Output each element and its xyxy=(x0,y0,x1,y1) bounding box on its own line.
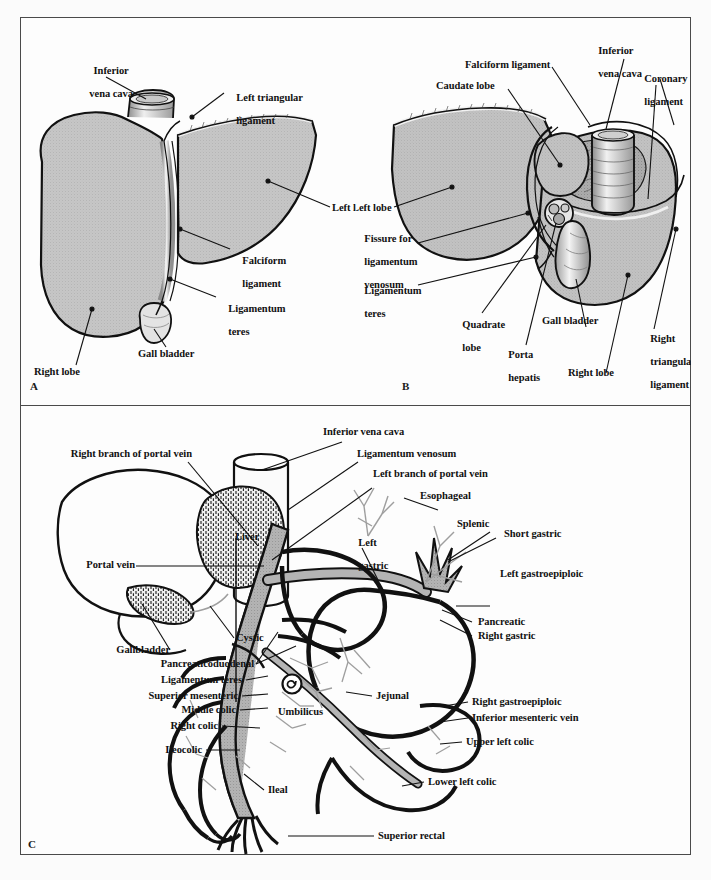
panel-c-portal-venous-system: C Inferior vena cava Right branch of por… xyxy=(20,406,691,855)
bare-area-shading xyxy=(560,140,646,203)
portal-vein-trunk-path xyxy=(220,524,272,816)
label-right-triangular-ligament-b: Right triangular ligament xyxy=(640,321,691,402)
label-left-branch-portal-vein-c: Left branch of portal vein xyxy=(373,468,543,480)
gall-bladder-b xyxy=(555,221,590,288)
label-ligamentum-teres-b: Ligamentum teres xyxy=(356,273,444,331)
caudate-lobe-shape xyxy=(535,133,589,196)
panel-a-letter: A xyxy=(30,380,38,392)
label-ligamentum-teres-c: Ligamentum teres xyxy=(50,674,242,686)
liver-left-lobe-shape xyxy=(178,116,316,263)
fissure-ligamentum-venosum xyxy=(527,127,554,251)
ivc-tube-c xyxy=(234,454,288,606)
label-pancreaticoduodenal-c: Pancreaticoduodenal xyxy=(30,658,254,670)
liver-outline-c xyxy=(58,470,226,617)
liver-right-lobe-shape xyxy=(41,112,170,337)
label-coronary-ligament-b: Coronary ligament xyxy=(634,61,691,119)
label-right-lobe-a: Right lobe xyxy=(34,366,134,378)
label-superior-mesenteric-c: Superior mesenteric xyxy=(46,690,238,702)
gallbladder-cystic-c xyxy=(127,585,228,624)
umbilicus-icon xyxy=(283,675,302,694)
ileal-arcades xyxy=(208,834,240,842)
label-right-gastric-c: Right gastric xyxy=(478,630,578,642)
ivc-b xyxy=(592,129,634,215)
panel-a-anterior-liver: A Inferior vena cava Left triangular lig… xyxy=(20,17,356,405)
label-ligamentum-venosum-c: Ligamentum venosum xyxy=(357,448,517,460)
label-ligamentum-teres-a: Ligamentum teres xyxy=(218,291,318,349)
short-gastric-tributaries xyxy=(426,526,466,582)
label-upper-left-colic-c: Upper left colic xyxy=(466,736,596,748)
label-ileocolic-c: Ileocolic xyxy=(110,744,202,756)
porta-hepatis-group xyxy=(545,199,573,227)
label-lower-left-colic-c: Lower left colic xyxy=(428,776,558,788)
panel-c-letter: C xyxy=(28,838,36,850)
splenic-hilum xyxy=(416,538,462,592)
label-liver-c: Liver xyxy=(235,531,295,543)
panel-b-visceral-liver: B Falciform ligament Caudate lobe Inferi… xyxy=(356,17,691,405)
label-left-gastric-c: Left gastric xyxy=(348,525,408,583)
label-left-triangular-ligament-a: Left triangular ligament xyxy=(226,80,346,138)
label-left-gastroepiploic-c: Left gastroepiploic xyxy=(500,568,640,580)
coronary-ligament-band xyxy=(588,122,678,197)
label-gall-bladder-b: Gall bladder xyxy=(542,315,642,327)
cystic-vein xyxy=(192,594,228,612)
label-right-gastroepiploic-c: Right gastroepiploic xyxy=(472,696,622,708)
label-left-lobe-b: Left lobe xyxy=(356,202,422,214)
label-inferior-vena-cava-a: Inferior vena cava xyxy=(56,53,156,111)
panel-c-artwork xyxy=(20,406,691,855)
jejunal-tributaries xyxy=(270,658,332,752)
label-esophageal-c: Esophageal xyxy=(420,490,510,502)
label-falciform-ligament-b: Falciform ligament xyxy=(465,59,595,71)
liver-right-lobe-shape-b xyxy=(536,130,676,305)
panel-b-letter: B xyxy=(402,380,409,392)
label-gall-bladder-a: Gall bladder xyxy=(138,348,248,360)
label-portal-vein-c: Portal vein xyxy=(40,559,135,571)
portal-vein-trunk xyxy=(220,524,288,818)
label-inferior-mesenteric-vein-c: Inferior mesenteric vein xyxy=(472,712,642,724)
label-ileal-c: Ileal xyxy=(268,784,318,796)
right-gastric-vein xyxy=(282,620,346,633)
label-caudate-lobe-b: Caudate lobe xyxy=(436,80,546,92)
label-jejunal-c: Jejunal xyxy=(376,690,446,702)
label-right-branch-portal-vein-c: Right branch of portal vein xyxy=(26,448,192,460)
label-middle-colic-c: Middle colic xyxy=(66,704,236,716)
label-pancreatic-c: Pancreatic xyxy=(478,616,568,628)
label-left-lobe-a: Left lobe xyxy=(332,202,356,214)
gall-bladder-a xyxy=(140,303,171,343)
label-superior-rectal-c: Superior rectal xyxy=(378,830,498,842)
label-porta-hepatis-b: Porta hepatis xyxy=(498,337,568,395)
label-right-colic-c: Right colic xyxy=(60,720,218,732)
inferior-mesenteric-vein xyxy=(266,652,418,784)
label-umbilicus-c: Umbilicus xyxy=(278,706,368,718)
label-cystic-c: Cystic xyxy=(236,632,296,644)
label-inferior-vena-cava-c: Inferior vena cava xyxy=(323,426,463,438)
label-short-gastric-c: Short gastric xyxy=(504,528,614,540)
label-gallbladder-c: Gallbladder xyxy=(68,644,170,656)
pancreatic-tributaries xyxy=(340,638,370,682)
superior-rectal-veins xyxy=(218,816,278,854)
